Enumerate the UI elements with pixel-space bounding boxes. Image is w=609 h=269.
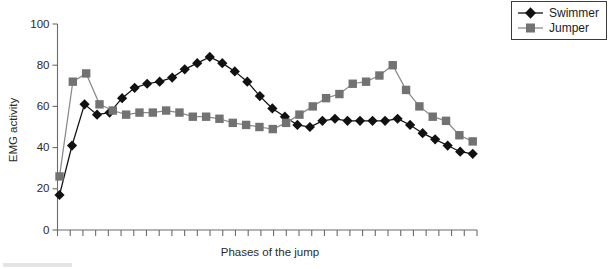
legend-label-jumper: Jumper [549, 21, 589, 35]
data-point-jumper [469, 137, 477, 145]
data-point-swimmer [455, 147, 465, 157]
data-point-jumper [255, 123, 263, 131]
data-point-swimmer [342, 116, 352, 126]
x-axis-title: Phases of the jump [221, 246, 319, 258]
data-point-jumper [189, 113, 197, 121]
data-point-jumper [429, 113, 437, 121]
data-point-jumper [242, 121, 250, 129]
data-point-jumper [375, 71, 383, 79]
y-tick-label: 0 [43, 224, 49, 236]
data-point-jumper [215, 115, 223, 123]
data-point-jumper [442, 117, 450, 125]
plot-area [54, 52, 477, 200]
data-point-swimmer [292, 120, 302, 130]
data-point-swimmer [443, 140, 453, 150]
data-point-jumper [202, 113, 210, 121]
data-point-jumper [362, 77, 370, 85]
data-point-swimmer [205, 52, 215, 62]
legend-item-jumper: Jumper [517, 20, 599, 35]
data-point-jumper [162, 106, 170, 114]
data-point-swimmer [317, 116, 327, 126]
data-point-swimmer [380, 116, 390, 126]
y-tick-label: 20 [37, 182, 50, 194]
y-axis-title: EMG activity [7, 97, 19, 162]
x-axis [58, 230, 478, 236]
data-point-swimmer [355, 116, 365, 126]
data-point-jumper [322, 94, 330, 102]
data-point-jumper [269, 125, 277, 133]
data-point-swimmer [180, 64, 190, 74]
data-point-jumper [95, 100, 103, 108]
data-point-swimmer [468, 149, 478, 159]
y-axis: 020406080100 [30, 18, 57, 236]
data-point-swimmer [142, 79, 152, 89]
data-point-swimmer [305, 122, 315, 132]
data-point-swimmer [405, 120, 415, 130]
data-point-swimmer [217, 58, 227, 68]
data-point-swimmer [392, 114, 402, 124]
data-point-jumper [55, 172, 63, 180]
y-tick-label: 100 [30, 18, 49, 30]
data-point-jumper [109, 106, 117, 114]
legend-item-swimmer: Swimmer [517, 5, 599, 20]
data-point-jumper [415, 102, 423, 110]
data-point-swimmer [192, 58, 202, 68]
data-point-jumper [149, 108, 157, 116]
chart-canvas: 020406080100 EMG activity Phases of the … [0, 0, 609, 269]
data-point-swimmer [430, 134, 440, 144]
data-point-jumper [175, 108, 183, 116]
data-point-jumper [82, 69, 90, 77]
data-point-jumper [282, 119, 290, 127]
data-point-jumper [122, 110, 130, 118]
data-point-swimmer [418, 128, 428, 138]
data-point-swimmer [54, 190, 64, 200]
chart-legend: Swimmer Jumper [511, 1, 607, 40]
data-point-jumper [135, 108, 143, 116]
legend-label-swimmer: Swimmer [549, 6, 599, 20]
data-point-jumper [402, 86, 410, 94]
square-marker-icon [517, 21, 544, 35]
data-point-jumper [389, 61, 397, 69]
data-point-swimmer [155, 77, 165, 87]
data-point-swimmer [367, 116, 377, 126]
data-point-jumper [335, 90, 343, 98]
data-point-jumper [229, 119, 237, 127]
data-point-jumper [295, 110, 303, 118]
y-tick-label: 80 [37, 59, 50, 71]
data-point-jumper [309, 102, 317, 110]
emg-activity-line-chart: 020406080100 EMG activity Phases of the … [0, 0, 609, 269]
data-point-swimmer [67, 140, 77, 150]
y-tick-label: 40 [37, 141, 50, 153]
diamond-marker-icon [517, 6, 544, 20]
data-point-swimmer [330, 114, 340, 124]
data-point-swimmer [167, 72, 177, 82]
scan-edge-artifact [3, 263, 72, 267]
data-point-jumper [349, 80, 357, 88]
y-tick-label: 60 [37, 100, 50, 112]
data-point-jumper [455, 131, 463, 139]
data-point-jumper [69, 77, 77, 85]
